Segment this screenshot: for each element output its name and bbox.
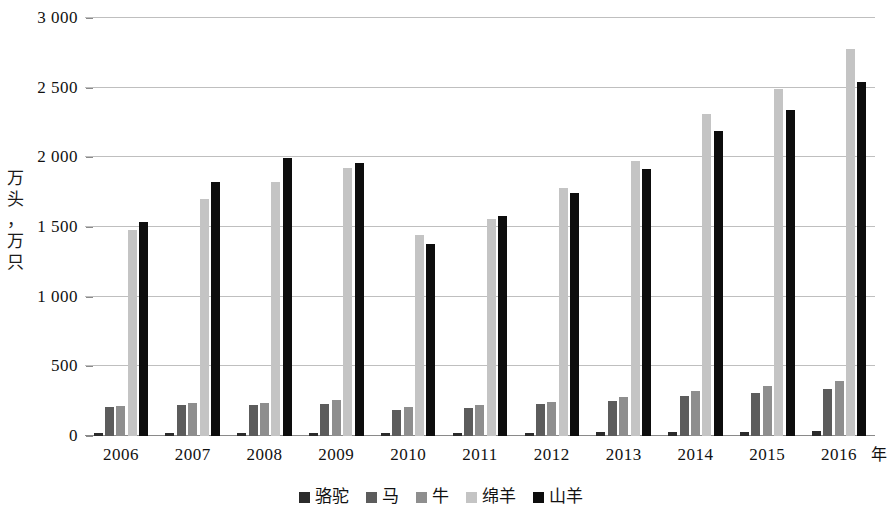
bar-2012-骆驼[interactable] bbox=[525, 433, 534, 436]
x-tick-label-2008: 2008 bbox=[229, 444, 301, 466]
bar-2008-骆驼[interactable] bbox=[237, 433, 246, 436]
bar-2011-绵羊[interactable] bbox=[487, 219, 496, 436]
bar-2016-山羊[interactable] bbox=[857, 82, 866, 436]
bar-2015-骆驼[interactable] bbox=[740, 432, 749, 436]
bar-cluster bbox=[588, 18, 660, 436]
bar-2013-绵羊[interactable] bbox=[631, 161, 640, 436]
bar-2010-骆驼[interactable] bbox=[381, 433, 390, 436]
bar-2006-骆驼[interactable] bbox=[94, 433, 103, 436]
bar-2010-牛[interactable] bbox=[404, 407, 413, 436]
bar-2012-绵羊[interactable] bbox=[559, 188, 568, 436]
legend-label: 牛 bbox=[432, 487, 449, 507]
bar-2014-马[interactable] bbox=[680, 396, 689, 436]
x-tick-label-2006: 2006 bbox=[85, 444, 157, 466]
bar-2013-马[interactable] bbox=[608, 401, 617, 436]
bar-2007-牛[interactable] bbox=[188, 403, 197, 436]
bar-2016-牛[interactable] bbox=[835, 381, 844, 436]
legend-label: 绵羊 bbox=[482, 487, 516, 507]
legend-item-马[interactable]: 马 bbox=[366, 487, 399, 507]
bar-2012-山羊[interactable] bbox=[570, 193, 579, 436]
bar-2012-牛[interactable] bbox=[547, 402, 556, 436]
legend-item-牛[interactable]: 牛 bbox=[416, 487, 449, 507]
bar-2010-马[interactable] bbox=[392, 410, 401, 436]
x-tick-label-2010: 2010 bbox=[372, 444, 444, 466]
bar-2007-马[interactable] bbox=[177, 405, 186, 436]
x-tick-label-2015: 2015 bbox=[731, 444, 803, 466]
bar-2009-牛[interactable] bbox=[332, 400, 341, 436]
bar-2013-骆驼[interactable] bbox=[596, 432, 605, 436]
bar-2006-牛[interactable] bbox=[116, 406, 125, 436]
bar-2008-山羊[interactable] bbox=[283, 158, 292, 436]
x-tick-label-2013: 2013 bbox=[588, 444, 660, 466]
y-tick-label: 0 bbox=[12, 427, 78, 444]
legend-item-山羊[interactable]: 山羊 bbox=[533, 487, 583, 507]
bar-cluster bbox=[660, 18, 732, 436]
legend-item-绵羊[interactable]: 绵羊 bbox=[466, 487, 516, 507]
bar-2013-牛[interactable] bbox=[619, 397, 628, 436]
legend-swatch-icon bbox=[366, 492, 377, 503]
bar-2009-绵羊[interactable] bbox=[343, 168, 352, 436]
x-tick-label-2009: 2009 bbox=[300, 444, 372, 466]
bar-cluster bbox=[731, 18, 803, 436]
legend-item-骆驼[interactable]: 骆驼 bbox=[299, 487, 349, 507]
bar-2016-绵羊[interactable] bbox=[846, 49, 855, 436]
bar-2011-山羊[interactable] bbox=[498, 216, 507, 436]
bar-2015-绵羊[interactable] bbox=[774, 89, 783, 436]
bar-2014-牛[interactable] bbox=[691, 391, 700, 436]
bar-2014-山羊[interactable] bbox=[714, 131, 723, 436]
legend-label: 骆驼 bbox=[315, 487, 349, 507]
bar-2016-马[interactable] bbox=[823, 389, 832, 436]
bar-2011-马[interactable] bbox=[464, 408, 473, 436]
bar-2014-绵羊[interactable] bbox=[702, 114, 711, 436]
bar-2006-绵羊[interactable] bbox=[128, 230, 137, 436]
bar-2008-牛[interactable] bbox=[260, 403, 269, 436]
x-tick-label-2007: 2007 bbox=[157, 444, 229, 466]
bar-2014-骆驼[interactable] bbox=[668, 432, 677, 436]
bar-2015-马[interactable] bbox=[751, 393, 760, 436]
x-axis-ticks: 2006200720082009201020112012201320142015… bbox=[85, 444, 875, 472]
bar-2007-山羊[interactable] bbox=[211, 182, 220, 436]
bar-2012-马[interactable] bbox=[536, 404, 545, 436]
bar-2011-牛[interactable] bbox=[475, 405, 484, 436]
bar-2011-骆驼[interactable] bbox=[453, 433, 462, 436]
bar-cluster bbox=[444, 18, 516, 436]
bar-cluster bbox=[157, 18, 229, 436]
x-tick-label-2011: 2011 bbox=[444, 444, 516, 466]
bar-2016-骆驼[interactable] bbox=[812, 431, 821, 436]
legend-label: 山羊 bbox=[549, 487, 583, 507]
bar-2010-山羊[interactable] bbox=[426, 244, 435, 436]
x-tick-label-2016: 2016 bbox=[803, 444, 875, 466]
bar-cluster bbox=[300, 18, 372, 436]
plot-area bbox=[85, 18, 875, 436]
bar-2006-山羊[interactable] bbox=[139, 222, 148, 436]
bar-2007-骆驼[interactable] bbox=[165, 433, 174, 436]
bar-2009-山羊[interactable] bbox=[355, 163, 364, 436]
bar-2009-骆驼[interactable] bbox=[309, 433, 318, 436]
bar-cluster bbox=[229, 18, 301, 436]
legend-swatch-icon bbox=[299, 492, 310, 503]
y-tick-label: 3 000 bbox=[12, 9, 78, 26]
chart-legend: 骆驼马牛绵羊山羊 bbox=[0, 487, 882, 507]
bar-2006-马[interactable] bbox=[105, 407, 114, 436]
legend-swatch-icon bbox=[533, 492, 544, 503]
bar-cluster bbox=[85, 18, 157, 436]
legend-swatch-icon bbox=[416, 492, 427, 503]
bar-2015-牛[interactable] bbox=[763, 386, 772, 436]
x-axis-unit-label: 年 bbox=[871, 444, 887, 466]
bar-2007-绵羊[interactable] bbox=[200, 199, 209, 436]
bar-cluster bbox=[516, 18, 588, 436]
bar-2009-马[interactable] bbox=[320, 404, 329, 436]
x-tick-label-2014: 2014 bbox=[660, 444, 732, 466]
legend-swatch-icon bbox=[466, 492, 477, 503]
y-axis-ticks: 05001 0001 5002 0002 5003 000 bbox=[8, 0, 78, 519]
bar-2008-绵羊[interactable] bbox=[271, 182, 280, 436]
bar-2008-马[interactable] bbox=[249, 405, 258, 436]
y-tick-label: 1 500 bbox=[12, 218, 78, 235]
bar-2015-山羊[interactable] bbox=[786, 110, 795, 436]
legend-label: 马 bbox=[382, 487, 399, 507]
bar-cluster bbox=[803, 18, 875, 436]
bar-2010-绵羊[interactable] bbox=[415, 235, 424, 436]
y-tick-label: 2 500 bbox=[12, 79, 78, 96]
bar-2013-山羊[interactable] bbox=[642, 169, 651, 436]
